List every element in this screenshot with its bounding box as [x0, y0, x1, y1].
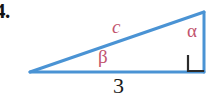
right-angle-icon: [188, 56, 203, 71]
angle-beta-label: β: [98, 47, 108, 66]
base-length-label: 3: [113, 75, 124, 97]
figure-canvas: 4. c α β 3: [0, 0, 216, 106]
right-triangle-diagram: [0, 0, 216, 106]
angle-alpha-label: α: [187, 21, 197, 40]
hypotenuse-label: c: [112, 17, 120, 36]
